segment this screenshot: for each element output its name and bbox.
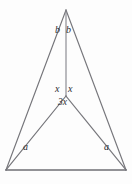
angle-label-b-left: b	[55, 25, 60, 35]
angle-label-b-right: b	[66, 25, 71, 35]
segment-apex-to-base-right	[66, 10, 126, 170]
geometry-figure: b b x x 3x a a	[0, 0, 132, 184]
angle-label-a-right: a	[104, 142, 109, 152]
angle-label-x-right: x	[68, 84, 72, 94]
segment-inner-to-base-right	[66, 96, 126, 170]
angle-label-x-left: x	[55, 84, 59, 94]
segment-inner-to-base-left	[6, 96, 66, 170]
angle-label-a-left: a	[23, 142, 28, 152]
angle-label-three-x: 3x	[58, 97, 67, 107]
